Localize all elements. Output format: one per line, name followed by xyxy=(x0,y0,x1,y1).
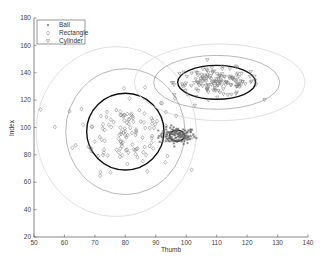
y-tick-label: 80 xyxy=(24,151,32,158)
x-tick-label: 120 xyxy=(242,239,253,246)
legend-label: Cylinder xyxy=(59,37,84,45)
x-tick-label: 50 xyxy=(30,239,38,246)
legend-label: Ball xyxy=(59,21,70,28)
x-tick-label: 60 xyxy=(61,239,69,246)
x-axis-label: Thumb xyxy=(161,246,182,253)
y-axis-label: Index xyxy=(8,119,15,136)
y-tick-label: 40 xyxy=(24,206,32,213)
y-tick-label: 120 xyxy=(20,96,31,103)
y-tick-label: 180 xyxy=(20,14,31,21)
y-tick-label: 60 xyxy=(24,178,32,185)
rectangle-ellipse-inner xyxy=(87,93,164,170)
x-tick-label: 90 xyxy=(152,239,160,246)
x-tick-label: 140 xyxy=(303,239,314,246)
ball-points xyxy=(157,124,198,148)
x-tick-label: 100 xyxy=(181,239,192,246)
x-tick-label: 70 xyxy=(91,239,99,246)
y-tick-label: 140 xyxy=(20,69,31,76)
confidence-ellipses xyxy=(36,44,305,216)
x-tick-label: 80 xyxy=(122,239,130,246)
x-tick-label: 130 xyxy=(272,239,283,246)
data-points xyxy=(39,59,266,178)
legend: BallRectangleCylinder xyxy=(37,20,89,45)
scatter-chart: 5060708090100110120130140204060801001201… xyxy=(0,0,326,265)
legend-label: Rectangle xyxy=(59,29,89,37)
y-tick-label: 20 xyxy=(24,233,32,240)
y-tick-label: 160 xyxy=(20,42,31,49)
y-tick-label: 100 xyxy=(20,124,31,131)
x-tick-label: 110 xyxy=(211,239,222,246)
